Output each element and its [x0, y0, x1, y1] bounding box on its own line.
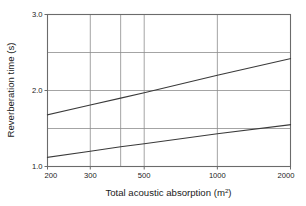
y-tick-label-3: 3.0 — [32, 10, 43, 19]
chart-canvas: 20030050010002000 1.02.03.0 Total acoust… — [0, 0, 306, 206]
x-tick-label-200: 200 — [45, 171, 58, 180]
x-tick-label-2000: 2000 — [278, 171, 295, 180]
y-axis-title: Reverberation time (s) — [5, 43, 16, 138]
x-tick-label-500: 500 — [138, 171, 151, 180]
x-axis-title: Total acoustic absorption (m2) — [105, 187, 231, 198]
x-tick-label-1000: 1000 — [209, 171, 226, 180]
y-tick-label-2: 2.0 — [32, 86, 43, 95]
y-tick-label-1: 1.0 — [32, 162, 43, 171]
reverberation-time-chart: 20030050010002000 1.02.03.0 Total acoust… — [0, 0, 306, 206]
x-tick-label-300: 300 — [84, 171, 97, 180]
